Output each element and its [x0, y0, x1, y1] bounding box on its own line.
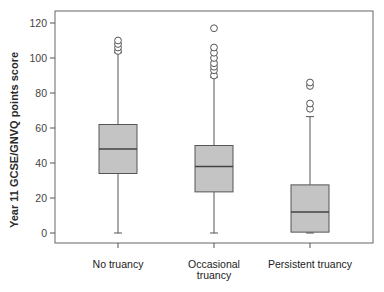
x-category-label: Persistent truancy [268, 258, 353, 270]
y-tick-label: 80 [35, 87, 47, 99]
box-group [195, 25, 233, 233]
y-axis: 020406080100120 [29, 17, 55, 239]
y-tick-label: 0 [41, 227, 47, 239]
outlier-point [211, 25, 218, 32]
outlier-point [307, 79, 314, 86]
outlier-point [211, 44, 218, 51]
y-tick-label: 100 [29, 52, 47, 64]
y-tick-label: 60 [35, 122, 47, 134]
x-category-label: No truancy [93, 258, 145, 270]
y-tick-label: 20 [35, 192, 47, 204]
y-tick-label: 120 [29, 17, 47, 29]
box-group [99, 37, 137, 233]
iqr-box [195, 146, 233, 192]
box-plot-chart: 020406080100120 No truancyOccasionaltrua… [0, 0, 384, 292]
outlier-point [307, 100, 314, 107]
x-category-label: truancy [197, 269, 232, 281]
y-axis-label: Year 11 GCSE/GNVQ points score [8, 52, 20, 228]
box-group [291, 79, 329, 233]
box-series [99, 25, 329, 233]
x-axis: No truancyOccasionaltruancyPersistent tr… [93, 243, 353, 281]
outlier-point [115, 37, 122, 44]
y-tick-label: 40 [35, 157, 47, 169]
iqr-box [291, 185, 329, 232]
chart-canvas: 020406080100120 No truancyOccasionaltrua… [0, 0, 384, 292]
